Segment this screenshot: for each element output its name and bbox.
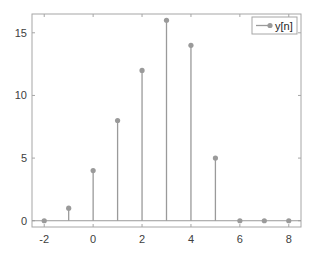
y-tick-label: 5 — [21, 152, 27, 164]
y-tick-label: 15 — [15, 27, 27, 39]
x-tick-label: 4 — [188, 233, 194, 245]
stem-marker — [286, 218, 291, 223]
x-tick-label: 0 — [90, 233, 96, 245]
stem-marker — [42, 218, 47, 223]
x-tick-label: 8 — [286, 233, 292, 245]
x-tick-label: -2 — [39, 233, 49, 245]
y-tick-label: 10 — [15, 89, 27, 101]
stem-marker — [188, 43, 193, 48]
stem-marker — [213, 155, 218, 160]
stem-chart: 051015 -202468 y[n] — [0, 0, 316, 254]
legend-marker-icon — [267, 23, 272, 28]
stem-marker — [237, 218, 242, 223]
stem-marker — [139, 68, 144, 73]
stem-marker — [115, 118, 120, 123]
x-tick-label: 2 — [139, 233, 145, 245]
x-tick-label: 6 — [237, 233, 243, 245]
legend: y[n] — [252, 17, 297, 34]
y-tick-label: 0 — [21, 215, 27, 227]
legend-label: y[n] — [275, 20, 293, 32]
stem-marker — [66, 206, 71, 211]
stem-marker — [262, 218, 267, 223]
stem-marker — [91, 168, 96, 173]
stem-marker — [164, 18, 169, 23]
